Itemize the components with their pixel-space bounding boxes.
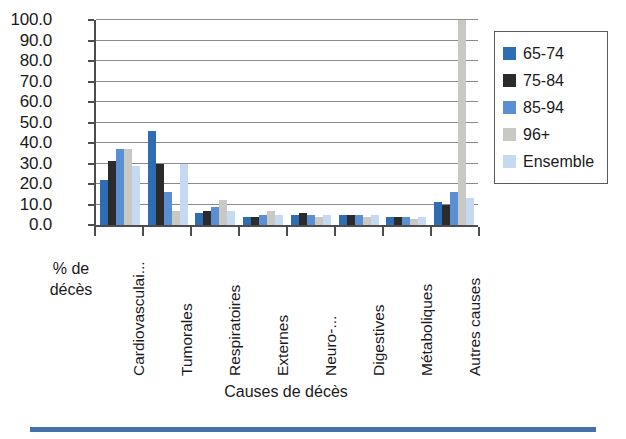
x-axis-tick-label: Neuro-...: [319, 236, 343, 376]
x-axis-tick-mark: [238, 227, 240, 236]
bar: [466, 198, 474, 225]
y-axis-tick-label: 100.0: [10, 11, 52, 28]
x-axis-tick-mark: [190, 227, 192, 236]
x-axis-tick-label: Cardiovasculai...: [127, 236, 151, 376]
bar: [450, 192, 458, 225]
bar: [339, 215, 347, 225]
x-axis-tick-label: Autres causes: [463, 236, 487, 376]
bar: [458, 20, 466, 225]
bar-group: [383, 20, 431, 225]
bar-group: [430, 20, 478, 225]
bottom-rule: [30, 427, 596, 432]
bar: [116, 149, 124, 225]
legend-item: 85-94: [503, 94, 601, 121]
bar: [410, 219, 418, 225]
x-axis-tick-label-text: Externes: [271, 236, 295, 376]
bar: [394, 217, 402, 225]
bar-groups: [96, 20, 478, 225]
y-axis-tick-label: 10.0: [20, 196, 52, 213]
bar: [108, 161, 116, 225]
chart-figure: 0.010.020.030.040.050.060.070.080.090.01…: [0, 0, 626, 439]
bar: [267, 211, 275, 225]
bar: [203, 211, 211, 225]
bar: [164, 192, 172, 225]
bar: [156, 164, 164, 226]
bar-group: [287, 20, 335, 225]
bar: [299, 213, 307, 225]
bar: [124, 149, 132, 225]
bar: [132, 166, 140, 225]
bar: [291, 215, 299, 225]
bar: [442, 205, 450, 226]
x-axis-tick-label-text: Cardiovasculai...: [127, 236, 151, 376]
x-axis-tick-mark: [478, 227, 480, 236]
y-axis-tick-label: 40.0: [20, 134, 52, 151]
y-axis-tick-label: 0.0: [29, 216, 52, 233]
y-axis-tick-label: 30.0: [20, 155, 52, 172]
legend-label: 85-94: [523, 100, 564, 116]
bar: [355, 215, 363, 225]
bar-group: [239, 20, 287, 225]
bar: [402, 217, 410, 225]
x-axis-tick-label-text: Respiratoires: [223, 236, 247, 376]
bar: [315, 217, 323, 225]
y-axis-tick-label: 20.0: [20, 175, 52, 192]
bar: [386, 217, 394, 225]
x-axis-tick-label-text: Digestives: [367, 236, 391, 376]
bar: [323, 215, 331, 225]
legend-item: 75-84: [503, 67, 601, 94]
legend-label: 75-84: [523, 73, 564, 89]
bar: [227, 211, 235, 225]
legend-swatch: [503, 47, 516, 60]
bar: [211, 207, 219, 225]
x-axis-tick-label: Externes: [271, 236, 295, 376]
bar-group: [192, 20, 240, 225]
y-axis-tick-label: 90.0: [20, 32, 52, 49]
bar: [180, 164, 188, 226]
x-axis-tick-label-text: Métaboliques: [415, 236, 439, 376]
y-axis-tick-label: 60.0: [20, 93, 52, 110]
x-axis-tick-mark: [142, 227, 144, 236]
bar: [148, 131, 156, 225]
bar: [418, 217, 426, 225]
bar: [275, 215, 283, 225]
bar: [363, 217, 371, 225]
x-axis-tick-label: Métaboliques: [415, 236, 439, 376]
bar-group: [144, 20, 192, 225]
y-axis-tick-label: 50.0: [20, 114, 52, 131]
bar-group: [335, 20, 383, 225]
bar: [219, 200, 227, 225]
legend-swatch: [503, 101, 516, 114]
x-axis-tick-mark: [94, 227, 96, 236]
y-axis-tick-label: 70.0: [20, 73, 52, 90]
legend-item: 65-74: [503, 40, 601, 67]
bar: [172, 211, 180, 225]
bar: [434, 202, 442, 225]
bar: [347, 215, 355, 225]
legend-label: 96+: [523, 127, 550, 143]
x-axis-tick-label-text: Neuro-...: [319, 236, 343, 376]
legend-swatch: [503, 128, 516, 141]
x-axis-tick-label-text: Autres causes: [463, 236, 487, 376]
y-axis-tick-label: 80.0: [20, 52, 52, 69]
bar: [243, 217, 251, 225]
y-axis-ticklabels: 0.010.020.030.040.050.060.070.080.090.01…: [0, 10, 86, 235]
x-axis-tick-mark: [430, 227, 432, 236]
bar: [371, 215, 379, 225]
x-axis-tick-mark: [334, 227, 336, 236]
chart-legend: 65-7475-8485-9496+Ensemble: [494, 31, 608, 184]
bar: [195, 213, 203, 225]
legend-swatch: [503, 155, 516, 168]
bar: [251, 217, 259, 225]
x-axis-tickmarks: [94, 227, 478, 236]
bar: [307, 215, 315, 225]
legend-item: Ensemble: [503, 148, 601, 175]
x-axis-tick-label-text: Tumorales: [175, 236, 199, 376]
x-axis-tick-label: Digestives: [367, 236, 391, 376]
x-axis-title: Causes de décès: [94, 383, 478, 401]
bar: [259, 215, 267, 225]
legend-label: 65-74: [523, 46, 564, 62]
legend-swatch: [503, 74, 516, 87]
legend-label: Ensemble: [523, 154, 594, 170]
x-axis-ticklabels: Cardiovasculai...TumoralesRespiratoiresE…: [94, 236, 478, 376]
